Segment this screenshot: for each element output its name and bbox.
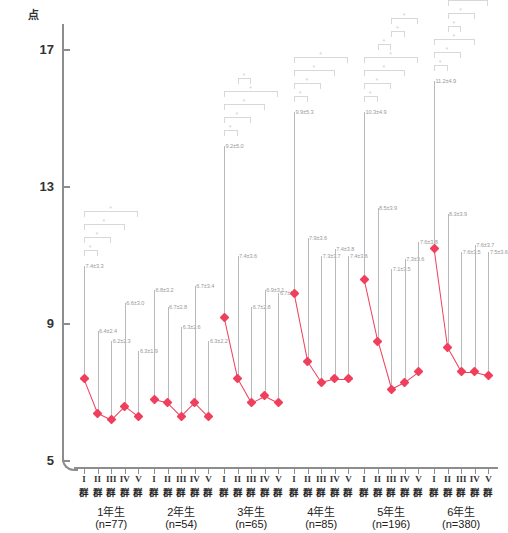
value-label: 8.5±3.9 bbox=[379, 205, 397, 211]
error-bar bbox=[98, 331, 99, 413]
error-bar bbox=[154, 290, 155, 400]
error-bar bbox=[195, 286, 196, 402]
data-point-marker bbox=[359, 275, 369, 285]
y-tick-5 bbox=[62, 460, 70, 462]
value-label: 7.6±3.5 bbox=[463, 249, 481, 255]
error-bar bbox=[208, 341, 209, 416]
data-point-marker bbox=[456, 367, 466, 377]
value-label: 8.3±3.9 bbox=[449, 211, 467, 217]
value-label: 6.7±2.8 bbox=[169, 304, 187, 310]
error-bar bbox=[348, 256, 349, 379]
series-line-segment bbox=[363, 280, 378, 342]
data-point-marker bbox=[330, 374, 340, 384]
series-line-segment bbox=[293, 294, 308, 363]
error-bar bbox=[308, 238, 309, 361]
significance-star: * bbox=[229, 124, 232, 131]
error-bar bbox=[251, 307, 252, 403]
significance-star: * bbox=[389, 51, 392, 58]
error-bar bbox=[84, 266, 85, 379]
value-label: 7.4±3.3 bbox=[86, 263, 104, 269]
error-bar bbox=[434, 81, 435, 249]
error-bar bbox=[138, 351, 139, 416]
data-point-marker bbox=[470, 367, 480, 377]
error-bar bbox=[278, 293, 279, 403]
error-bar bbox=[335, 249, 336, 379]
value-label: 6.6±3.0 bbox=[126, 300, 144, 306]
significance-star: * bbox=[439, 59, 442, 66]
value-label: 7.6±3.7 bbox=[476, 242, 494, 248]
y-tick-label-5: 5 bbox=[24, 453, 54, 468]
value-label: 7.9±3.6 bbox=[309, 235, 327, 241]
significance-star: * bbox=[452, 20, 455, 27]
y-tick-label-17: 17 bbox=[24, 42, 54, 57]
significance-star: * bbox=[89, 244, 92, 251]
value-label: 10.3±4.9 bbox=[366, 109, 387, 115]
value-label: 7.3±3.7 bbox=[323, 253, 341, 259]
value-label: 7.3±3.6 bbox=[406, 256, 424, 262]
data-point-marker bbox=[343, 374, 353, 384]
significance-star: * bbox=[369, 90, 372, 97]
significance-star: * bbox=[312, 64, 315, 71]
significance-star: * bbox=[396, 25, 399, 32]
data-point-marker bbox=[79, 374, 89, 384]
data-point-marker bbox=[429, 244, 439, 254]
significance-star: * bbox=[452, 33, 455, 40]
value-label: 7.1±3.5 bbox=[393, 266, 411, 272]
data-point-marker bbox=[373, 336, 383, 346]
error-bar bbox=[181, 327, 182, 416]
significance-star: * bbox=[236, 111, 239, 118]
value-label: 6.4±2.4 bbox=[99, 328, 117, 334]
group-grade-label: 6年生 bbox=[416, 503, 506, 519]
significance-star: * bbox=[459, 7, 462, 14]
error-bar bbox=[265, 290, 266, 396]
significance-star: * bbox=[96, 231, 99, 238]
y-tick-17 bbox=[62, 49, 70, 51]
significance-star: * bbox=[242, 98, 245, 105]
error-bar bbox=[224, 146, 225, 317]
series-line-segment bbox=[377, 342, 392, 390]
significance-star: * bbox=[242, 72, 245, 79]
significance-star: * bbox=[249, 85, 252, 92]
value-label: 6.3±2.2 bbox=[210, 338, 228, 344]
error-bar bbox=[378, 208, 379, 342]
data-point-marker bbox=[443, 343, 453, 353]
y-tick-9 bbox=[62, 323, 70, 325]
value-label: 6.2±2.3 bbox=[113, 338, 131, 344]
value-label: 7.5±3.6 bbox=[490, 249, 508, 255]
series-line-segment bbox=[433, 249, 448, 349]
value-label: 9.2±5.0 bbox=[226, 143, 244, 149]
group-n-label: (n=380) bbox=[416, 518, 506, 530]
y-axis-line bbox=[62, 24, 64, 460]
data-point-marker bbox=[219, 312, 229, 322]
value-label: 6.3±1.9 bbox=[140, 348, 158, 354]
value-label: 6.8±3.2 bbox=[156, 287, 174, 293]
value-label: 9.9±5.3 bbox=[296, 109, 314, 115]
significance-star: * bbox=[319, 51, 322, 58]
y-tick-label-9: 9 bbox=[24, 316, 54, 331]
value-label: 6.3±2.6 bbox=[183, 324, 201, 330]
data-point-marker bbox=[483, 370, 493, 380]
value-label: 7.4±3.8 bbox=[336, 246, 354, 252]
error-bar bbox=[488, 252, 489, 375]
value-label: 6.7±2.8 bbox=[253, 304, 271, 310]
value-label: 7.4±3.6 bbox=[239, 253, 257, 259]
error-bar bbox=[418, 242, 419, 372]
significance-star: * bbox=[376, 77, 379, 84]
error-bar bbox=[461, 252, 462, 372]
significance-star: * bbox=[446, 46, 449, 53]
error-bar bbox=[111, 341, 112, 420]
value-label: 11.2±4.9 bbox=[436, 78, 457, 84]
significance-star: * bbox=[403, 12, 406, 19]
x-label-gun: 群 bbox=[479, 485, 497, 499]
value-label: 6.7±3.4 bbox=[196, 283, 214, 289]
x-label-roman: V bbox=[479, 474, 497, 484]
series-line-segment bbox=[223, 318, 238, 380]
significance-star: * bbox=[382, 64, 385, 71]
significance-star: * bbox=[109, 205, 112, 212]
significance-star: * bbox=[466, 0, 469, 1]
error-bar bbox=[294, 112, 295, 294]
data-point-marker bbox=[233, 374, 243, 384]
significance-star: * bbox=[102, 218, 105, 225]
error-bar bbox=[168, 307, 169, 403]
